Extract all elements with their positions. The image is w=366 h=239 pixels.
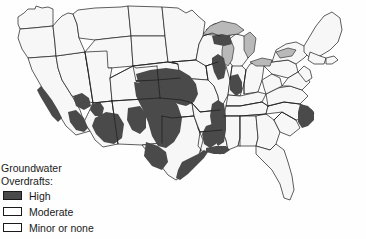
state-washington [18, 6, 53, 29]
legend-title-line1: Groundwater [1, 162, 131, 175]
legend-swatch-minor [3, 223, 22, 232]
legend-title-line2: Overdrafts: [1, 175, 131, 188]
state-massachusetts-cape [326, 56, 338, 64]
state-alabama [238, 116, 258, 146]
state-north-dakota [128, 6, 165, 36]
legend-item-moderate: Moderate [1, 204, 131, 219]
state-new-england [304, 12, 342, 58]
groundwater-overdraft-map: Groundwater Overdrafts: High Moderate Mi… [0, 0, 366, 239]
legend-item-high: High [1, 188, 131, 203]
state-montana [73, 6, 131, 40]
overdraft-carolina-coast [298, 104, 314, 128]
lake-huron [244, 32, 256, 58]
legend-label-moderate: Moderate [29, 206, 73, 218]
state-florida [256, 144, 294, 200]
map-legend: Groundwater Overdrafts: High Moderate Mi… [1, 162, 131, 235]
state-south-dakota [131, 36, 168, 66]
legend-label-high: High [29, 190, 51, 202]
legend-swatch-high [3, 191, 22, 200]
legend-item-minor: Minor or none [1, 220, 131, 235]
legend-label-minor: Minor or none [29, 222, 94, 234]
state-ohio [244, 62, 264, 94]
legend-swatch-moderate [3, 207, 22, 216]
state-oregon [18, 26, 56, 58]
